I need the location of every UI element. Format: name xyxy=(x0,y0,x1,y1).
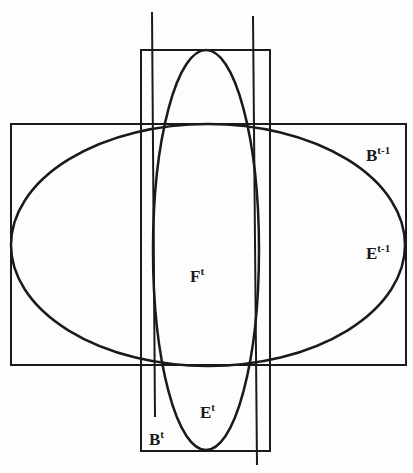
label-b-curr: Bt xyxy=(149,428,164,449)
label-b-prev: Bt-1 xyxy=(366,144,390,165)
bounding-box-curr xyxy=(141,50,270,451)
label-f-curr: Ft xyxy=(190,265,204,286)
ellipse-curr xyxy=(153,50,259,450)
label-e-curr: Et xyxy=(200,401,215,422)
diagram-canvas: Bt-1 Et-1 Ft Et Bt xyxy=(0,0,413,473)
ellipse-prev xyxy=(11,124,405,366)
boundary-line-right xyxy=(253,16,257,465)
diagram-svg: Bt-1 Et-1 Ft Et Bt xyxy=(0,0,413,473)
label-e-prev: Et-1 xyxy=(366,242,390,263)
